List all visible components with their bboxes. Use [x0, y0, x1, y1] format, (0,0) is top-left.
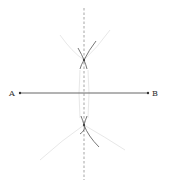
- point-a-label: A: [8, 89, 15, 98]
- point-a-dot: [19, 92, 21, 94]
- lower-intersection-point: [83, 124, 85, 126]
- upper-intersection-arcs: [78, 41, 96, 69]
- upper-intersection-point: [83, 59, 85, 61]
- point-b-label: B: [152, 89, 158, 98]
- faint-construction-arcs: [40, 30, 125, 160]
- bisector-diagram: A B: [0, 0, 169, 190]
- point-b-dot: [147, 92, 149, 94]
